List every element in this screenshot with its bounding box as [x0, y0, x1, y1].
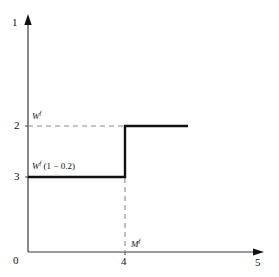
tick-marks: [25, 126, 125, 255]
y-axis-label: 1: [12, 17, 18, 28]
x-axis-label: 5: [255, 257, 261, 268]
y-tick-label-2: 2: [14, 120, 20, 131]
upper-level-superscript: f: [40, 109, 42, 116]
x-axis: [28, 248, 264, 255]
y-axis-arrowhead: [24, 14, 31, 25]
x-tick-label-4: 4: [121, 256, 127, 267]
lower-level-tail: (1 − 0.2): [41, 161, 75, 171]
upper-level-annotation: Wf: [32, 112, 41, 121]
plot-canvas: [0, 0, 279, 277]
threshold-base: M: [131, 239, 139, 249]
guide-lines: [28, 126, 125, 251]
threshold-superscript: f: [139, 237, 141, 244]
lower-level-base: W: [32, 161, 40, 171]
lower-level-annotation: Wf (1 − 0.2): [32, 162, 75, 171]
y-tick-label-3: 3: [14, 171, 20, 182]
upper-level-base: W: [32, 111, 40, 121]
y-axis: [24, 14, 31, 252]
origin-label: 0: [13, 255, 19, 266]
step-function-figure: 1 5 0 2 3 4 Wf Wf (1 − 0.2) Mf: [0, 0, 279, 277]
threshold-annotation: Mf: [131, 240, 140, 249]
x-axis-arrowhead: [253, 248, 264, 255]
